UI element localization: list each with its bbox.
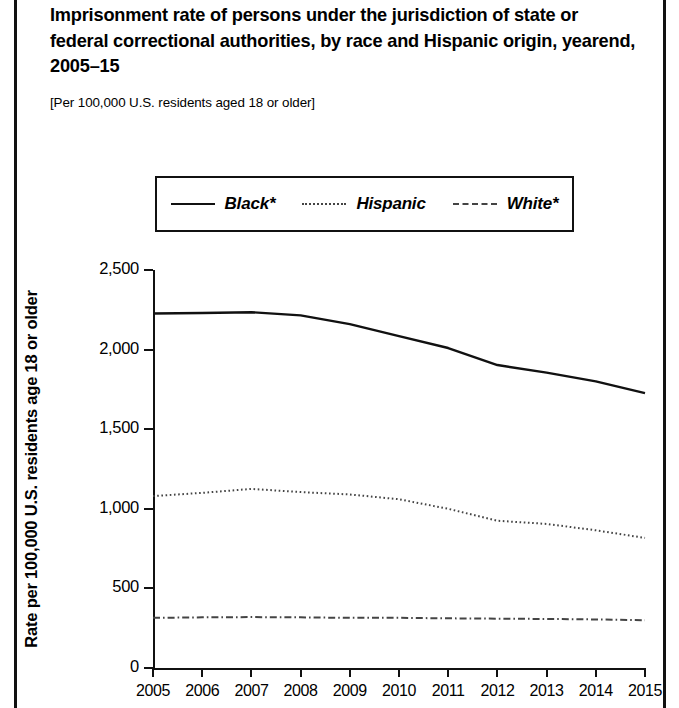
legend-swatch-dashdot-icon <box>453 199 497 209</box>
x-tick-mark <box>496 668 498 677</box>
figure-title: Imprisonment rate of persons under the j… <box>50 3 636 80</box>
legend-swatch-solid-icon <box>171 199 215 209</box>
x-tick-mark <box>398 668 400 677</box>
y-tick-mark <box>144 349 153 351</box>
x-tick-mark <box>447 668 449 677</box>
page-rule-right <box>663 0 666 708</box>
x-tick-label: 2011 <box>432 682 465 700</box>
y-tick-label: 2,000 <box>57 339 139 358</box>
y-tick-label: 2,500 <box>57 259 139 278</box>
page-rule-left <box>14 0 17 708</box>
x-tick-mark <box>152 668 154 677</box>
x-tick-label: 2007 <box>234 682 268 700</box>
legend-item-black: Black* <box>171 194 276 214</box>
x-tick-label: 2013 <box>530 682 564 700</box>
x-tick-label: 2015 <box>628 682 662 700</box>
x-tick-mark <box>349 668 351 677</box>
legend-swatch-dotted-icon <box>302 199 346 209</box>
x-tick-label: 2008 <box>284 682 318 700</box>
y-tick-mark <box>144 508 153 510</box>
y-tick-mark <box>144 428 153 430</box>
legend-label-black: Black* <box>225 194 276 214</box>
y-tick-label: 500 <box>57 577 139 596</box>
legend-label-hispanic: Hispanic <box>356 194 425 214</box>
series-line-white- <box>153 617 645 620</box>
legend-item-hispanic: Hispanic <box>302 194 425 214</box>
series-line-hispanic <box>153 489 645 538</box>
chart-series-layer <box>153 270 645 668</box>
y-tick-label: 1,500 <box>57 418 139 437</box>
x-tick-label: 2010 <box>382 682 416 700</box>
x-tick-mark <box>644 668 646 677</box>
x-tick-mark <box>546 668 548 677</box>
chart-plot-area: Rate per 100,000 U.S. residents age 18 o… <box>153 270 645 668</box>
x-tick-label: 2006 <box>185 682 219 700</box>
legend-item-white: White* <box>453 194 559 214</box>
legend-label-white: White* <box>507 194 559 214</box>
x-tick-mark <box>201 668 203 677</box>
x-tick-mark <box>300 668 302 677</box>
y-tick-mark <box>144 587 153 589</box>
y-tick-mark <box>144 269 153 271</box>
x-tick-label: 2009 <box>333 682 367 700</box>
y-tick-label: 1,000 <box>57 498 139 517</box>
x-tick-mark <box>595 668 597 677</box>
x-tick-label: 2014 <box>579 682 613 700</box>
x-tick-mark <box>250 668 252 677</box>
x-tick-label: 2012 <box>480 682 514 700</box>
figure-subtitle: [Per 100,000 U.S. residents aged 18 or o… <box>50 95 610 110</box>
y-tick-label: 0 <box>57 657 139 676</box>
y-axis-title: Rate per 100,000 U.S. residents age 18 o… <box>22 290 41 647</box>
figure-container: Imprisonment rate of persons under the j… <box>36 0 651 708</box>
x-tick-label: 2005 <box>136 682 170 700</box>
chart-legend: Black* Hispanic White* <box>155 176 574 232</box>
series-line-black- <box>153 312 645 393</box>
